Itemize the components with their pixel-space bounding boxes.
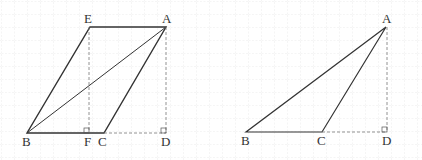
label-b: B — [241, 133, 250, 148]
label-d: D — [382, 133, 391, 148]
grid-background — [0, 0, 422, 160]
label-f: F — [84, 134, 91, 149]
geometry-figures: E A B F C D A B C D — [0, 0, 422, 160]
label-e: E — [84, 11, 92, 26]
label-c: C — [317, 133, 326, 148]
label-a: A — [162, 11, 172, 26]
label-a: A — [382, 11, 392, 26]
label-c: C — [98, 134, 107, 149]
label-d: D — [161, 134, 170, 149]
label-b: B — [22, 134, 31, 149]
